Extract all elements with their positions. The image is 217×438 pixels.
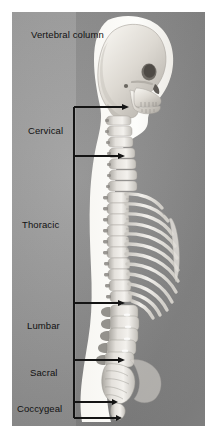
skull — [98, 24, 166, 118]
region-label-cervical: Cervical — [28, 125, 63, 136]
page-title: Vertebral column — [31, 29, 104, 40]
illustration-plate: Vertebral column Cervical Thoracic Lumba… — [12, 12, 205, 426]
region-label-thoracic: Thoracic — [22, 219, 59, 230]
region-label-coccygeal: Coccygeal — [17, 403, 62, 414]
lumbar-spine — [96, 305, 139, 367]
rib-cage — [126, 194, 178, 318]
region-label-sacral: Sacral — [30, 367, 58, 378]
figure-root: Vertebral column Cervical Thoracic Lumba… — [0, 0, 217, 438]
region-label-lumbar: Lumbar — [27, 320, 60, 331]
sacrum — [102, 364, 135, 404]
